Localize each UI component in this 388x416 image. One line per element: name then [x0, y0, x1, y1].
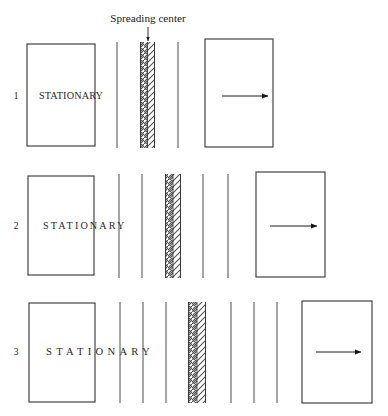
stationary-plate-label: STATIONARY: [43, 220, 127, 231]
row-number-label: 3: [14, 347, 19, 357]
diagram-row-3: 3STATIONARY: [14, 301, 372, 403]
stationary-plate-label: STATIONARY: [39, 90, 104, 101]
diagram-canvas: Spreading center 1STATIONARY2STATIONARY3…: [0, 0, 388, 416]
moving-plate-rect: [256, 172, 325, 277]
spreading-center-label: Spreading center: [110, 12, 186, 24]
spreading-band-left-half: [188, 302, 197, 403]
diagram-row-1: 1STATIONARY: [14, 39, 273, 148]
spreading-band-right-half: [173, 174, 181, 278]
spreading-center-diagram: Spreading center 1STATIONARY2STATIONARY3…: [0, 0, 388, 416]
spreading-band-left-half: [165, 174, 173, 278]
moving-plate-rect: [205, 39, 273, 147]
spreading-band-right-half: [197, 302, 206, 403]
row-number-label: 1: [14, 91, 19, 101]
spreading-band-right-half: [148, 42, 156, 148]
row-number-label: 2: [14, 221, 19, 231]
diagram-row-2: 2STATIONARY: [14, 172, 325, 278]
stationary-plate-label: STATIONARY: [46, 346, 154, 357]
spreading-band-left-half: [140, 42, 148, 148]
diagram-rows: 1STATIONARY2STATIONARY3STATIONARY: [14, 39, 372, 403]
